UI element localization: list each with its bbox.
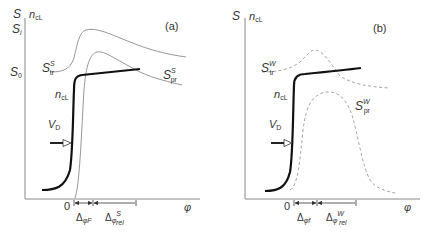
label-s-pr: SSpr bbox=[163, 67, 178, 84]
label-delta-phi-rel: ΔφSrel bbox=[105, 210, 124, 226]
x-axis-label: φ bbox=[404, 201, 411, 213]
label-ncl: ncL bbox=[274, 88, 288, 101]
y-axis-label-ncl: ncL bbox=[249, 10, 263, 23]
curve-s-tr bbox=[50, 29, 186, 72]
y-axis-label-ncl: ncL bbox=[29, 8, 43, 21]
vd-arrow-icon bbox=[284, 140, 292, 147]
panel-b: S ncL (b) SWtr SWpr ncL VD 0 φ Δφf ΔφWre… bbox=[232, 9, 420, 226]
label-delta-phi-rel: ΔφWrel bbox=[326, 210, 347, 226]
panel-a: S ncL Si S0 (a) SStr SSpr ncL VD 0 φ ΔφF… bbox=[10, 7, 200, 226]
curve-s-tr bbox=[262, 50, 390, 88]
y-tick-si: Si bbox=[12, 22, 22, 36]
label-s-tr: SStr bbox=[42, 60, 55, 76]
panel-tag: (a) bbox=[165, 20, 178, 32]
x-axis-label: φ bbox=[184, 201, 191, 213]
label-s-tr: SWtr bbox=[261, 60, 277, 76]
label-ncl: ncL bbox=[55, 88, 69, 101]
label-vd: VD bbox=[269, 118, 281, 131]
label-delta-phi-f: ΔφF bbox=[76, 212, 92, 225]
y-tick-s0: S0 bbox=[10, 65, 22, 79]
x-origin: 0 bbox=[64, 200, 70, 212]
label-delta-phi-f: Δφf bbox=[297, 212, 311, 225]
panel-tag: (b) bbox=[373, 22, 386, 34]
curve-s-pr bbox=[290, 92, 395, 193]
diagram-canvas: S ncL Si S0 (a) SStr SSpr ncL VD 0 φ ΔφF… bbox=[0, 0, 427, 233]
label-vd: VD bbox=[48, 118, 60, 131]
label-s-pr: SWpr bbox=[355, 98, 371, 115]
y-axis-label: S bbox=[232, 9, 240, 23]
x-origin: 0 bbox=[284, 200, 290, 212]
vd-arrow-icon bbox=[63, 140, 71, 147]
y-axis-label: S bbox=[13, 7, 21, 21]
